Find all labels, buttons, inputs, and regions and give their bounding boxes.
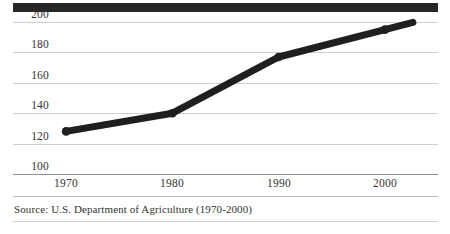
top-rule-divider	[13, 3, 438, 12]
data-point-1970	[62, 127, 71, 136]
y-tick-label-200: 200	[31, 8, 49, 20]
chart-figure: 200180160140120100 1970198019902000 Sour…	[0, 0, 450, 234]
x-tick-label-1970: 1970	[54, 176, 78, 190]
x-tick-label-1990: 1990	[267, 176, 291, 190]
source-top-divider	[13, 196, 438, 197]
series-line	[66, 22, 413, 131]
plot-area: 200180160140120100	[13, 22, 438, 174]
x-tick-label-2000: 2000	[373, 176, 397, 190]
source-bottom-divider	[13, 221, 438, 222]
x-axis-labels: 1970198019902000	[13, 176, 438, 192]
data-point-2000	[381, 25, 390, 34]
data-point-1980	[168, 109, 177, 118]
data-point-1990	[274, 53, 283, 62]
x-tick-label-1980: 1980	[160, 176, 184, 190]
line-series	[13, 22, 438, 174]
source-note: Source: U.S. Department of Agriculture (…	[14, 202, 252, 216]
gridline-100	[13, 174, 438, 175]
